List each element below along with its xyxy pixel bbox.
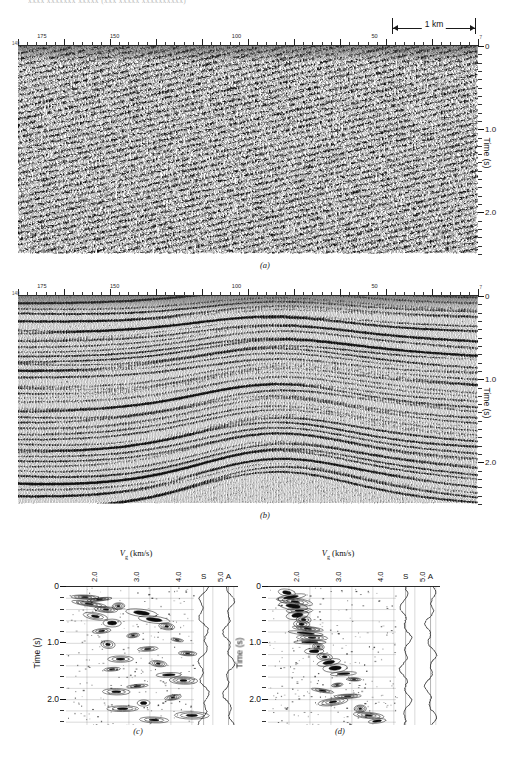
velocity-tick-label: 4.0 (376, 572, 385, 582)
velocity-trace-label-s: S (201, 572, 206, 581)
velocity-time-label: 0 (54, 581, 59, 591)
shotpoint-tick (64, 289, 65, 296)
velocity-tick-label: 5.0 (216, 572, 225, 582)
time-tick-label: 0 (485, 42, 489, 51)
velocity-time-label: 1.0 (47, 637, 59, 647)
shotpoint-tick-label: 175 (37, 283, 46, 289)
shotpoint-tick-label: 100 (232, 33, 241, 39)
velocity-time-tick (60, 609, 64, 610)
velocity-canvas-c (66, 587, 238, 725)
time-tick-label: 0 (485, 292, 489, 301)
time-tick (478, 487, 482, 488)
shotpoint-right-edge-a: 7 (479, 35, 482, 40)
time-tick (478, 88, 482, 89)
time-tick (478, 187, 482, 188)
velocity-tick-label: 3.0 (132, 572, 141, 582)
velocity-panel-c: Vg (km/s) 2.03.04.05.0SA 01.02.0 Time (s… (38, 548, 238, 728)
velocity-canvas-d (268, 587, 440, 725)
shotpoint-tick (202, 289, 203, 296)
velocity-time-tick (60, 620, 64, 621)
velocity-time-tick (60, 597, 64, 598)
shotpoint-tick (340, 39, 341, 46)
time-tick (478, 479, 482, 480)
time-tick (478, 229, 482, 230)
velocity-time-tick (262, 609, 266, 610)
scale-bar-label: 1 km (422, 19, 446, 29)
time-tick (478, 138, 482, 139)
time-tick-label: 2.0 (485, 458, 496, 467)
seismic-image-a (18, 46, 478, 254)
velocity-time-label: 1.0 (249, 637, 261, 647)
velocity-tick-label: 2.0 (90, 572, 99, 582)
time-tick (478, 446, 482, 447)
velocity-time-tick (262, 642, 268, 643)
panel-caption-b: (b) (235, 510, 295, 520)
shotpoint-tick (156, 39, 157, 46)
shotpoint-tick (110, 39, 111, 46)
time-tick (478, 63, 482, 64)
time-tick-label: 1.0 (485, 125, 496, 134)
velocity-trace-label-a: A (226, 572, 231, 581)
velocity-time-tick (60, 687, 64, 688)
shotpoint-tick-label: 150 (110, 283, 119, 289)
time-tick (478, 79, 482, 80)
time-axis-title-b: Time (s) (482, 388, 492, 419)
scale-bar-cap-right (475, 18, 476, 34)
shotpoint-tick-label: 150 (110, 33, 119, 39)
velocity-time-tick (262, 699, 268, 700)
velocity-time-tick (262, 665, 266, 666)
shotpoint-tick-label: 50 (371, 283, 377, 289)
shotpoint-tick-label: 50 (371, 33, 377, 39)
figure-page: xxxx xxxxxxx xxxxx (xxx xxxxx xxxxxxxxxx… (0, 0, 529, 766)
time-tick (478, 338, 482, 339)
velocity-units-d: (km/s) (332, 548, 354, 558)
time-tick (478, 388, 482, 389)
velocity-symbol-sub-c: g (125, 554, 128, 560)
time-tick (478, 54, 482, 55)
shotpoint-tick (478, 39, 479, 46)
shotpoint-tick (432, 289, 433, 296)
time-tick (478, 412, 482, 413)
velocity-time-tick (60, 642, 66, 643)
velocity-tick-label: 3.0 (334, 572, 343, 582)
time-tick (478, 246, 482, 247)
velocity-axis-title-c: Vg (km/s) (66, 548, 206, 560)
time-tick (478, 496, 482, 497)
velocity-trace-label-s: S (403, 572, 408, 581)
shotpoint-tick (202, 39, 203, 46)
time-tick (478, 454, 482, 455)
time-tick (478, 171, 482, 172)
shotpoint-tick (478, 289, 479, 296)
velocity-time-tick (60, 699, 66, 700)
time-tick (478, 421, 482, 422)
time-tick (478, 304, 482, 305)
time-tick-label: 1.0 (485, 375, 496, 384)
scale-bar-arrow-left (393, 25, 398, 31)
time-tick (478, 354, 482, 355)
time-tick (478, 329, 482, 330)
velocity-time-tick (60, 654, 64, 655)
shotpoint-axis-b: 17515010050 (18, 284, 478, 296)
time-tick (478, 146, 482, 147)
velocity-time-tick (262, 631, 266, 632)
shotpoint-tick (386, 289, 387, 296)
seismic-panel-b: 17515010050 140 7 (18, 284, 478, 504)
time-tick (478, 154, 482, 155)
time-tick (478, 504, 482, 505)
shotpoint-tick (432, 39, 433, 46)
velocity-trace-label-a: A (428, 572, 433, 581)
velocity-tick-label: 2.0 (292, 572, 301, 582)
shotpoint-tick (156, 289, 157, 296)
velocity-time-label: 2.0 (47, 694, 59, 704)
panel-caption-c: (c) (108, 726, 168, 736)
time-tick (478, 96, 482, 97)
shotpoint-tick (248, 39, 249, 46)
velocity-time-tick (262, 676, 266, 677)
time-tick (478, 437, 482, 438)
shotpoint-tick (248, 289, 249, 296)
shotpoint-tick-label: 175 (37, 33, 46, 39)
time-tick (478, 204, 482, 205)
time-tick (478, 404, 482, 405)
shotpoint-tick (340, 289, 341, 296)
seismic-canvas-b (18, 296, 478, 504)
